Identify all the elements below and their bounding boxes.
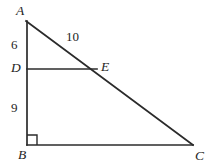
triangle-diagram-svg [0,0,215,166]
right-angle-marker-B [27,135,37,145]
vertex-label-D: D [11,61,21,75]
vertex-label-C: C [195,149,204,163]
length-label-AD: 6 [11,38,18,51]
vertex-label-A: A [16,4,24,18]
length-label-AE: 10 [66,30,79,43]
vertex-label-E: E [101,60,109,74]
geometry-figure: A B C D E 6 9 10 [0,0,215,166]
length-label-DB: 9 [11,101,18,114]
segment-AC [26,21,193,145]
vertex-label-B: B [18,148,26,162]
